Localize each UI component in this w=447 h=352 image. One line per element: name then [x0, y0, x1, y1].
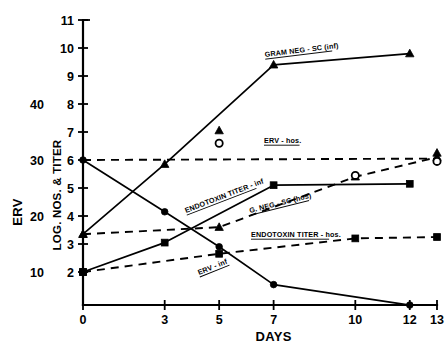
y-axis-title-secondary: ERV	[10, 198, 25, 225]
gram-neg-sc-inf-label: GRAM NEG - SC (inf)	[264, 41, 339, 59]
gram-neg-sc-inf-label-text: GRAM NEG - SC (inf)	[264, 41, 339, 59]
erv-hos-label: ERV - hos.	[264, 136, 301, 145]
y-axis-secondary-tick-label: 30	[30, 154, 44, 168]
endotoxin-titer-inf-day5-triangle	[215, 126, 223, 134]
y-axis-secondary-tick-label: 10	[30, 266, 44, 280]
series-line	[83, 184, 410, 272]
y-axis-tick-label: 7	[67, 126, 74, 140]
series-point	[161, 209, 168, 216]
y-axis-tick-label: 8	[67, 98, 74, 112]
y-axis-tick-label: 10	[60, 42, 74, 56]
series-point	[406, 302, 413, 309]
series-point	[80, 269, 87, 276]
x-axis-tick-label: 5	[216, 313, 223, 327]
series-point	[406, 180, 413, 187]
y-axis-tick-label: 2	[67, 266, 74, 280]
series-line	[83, 237, 437, 272]
x-axis-tick-label: 13	[430, 313, 444, 327]
x-axis-title: DAYS	[256, 329, 292, 344]
x-axis-tick-label: 12	[403, 313, 417, 327]
series-point	[80, 157, 87, 164]
series-line	[83, 157, 437, 234]
y-axis-title-primary: LOG. NOS. & TITER	[51, 139, 63, 250]
erv-hos-label-text: ERV - hos.	[264, 136, 301, 145]
x-axis-tick-label: 3	[161, 313, 168, 327]
endotoxin-titer-hos-label: ENDOTOXIN TITER - hos.	[251, 230, 341, 239]
axis-titles: DAYSLOG. NOS. & TITERERV	[10, 139, 292, 344]
series-line	[83, 54, 410, 235]
chart-svg: 234567891011102030400357101213 GRAM NEG …	[0, 0, 447, 352]
erv-inf-label: ERV - inf	[196, 257, 229, 277]
y-axis-tick-label: 9	[67, 70, 74, 84]
erv-hos-day10-circle-open	[352, 172, 359, 179]
y-axis-tick-label: 4	[67, 210, 74, 224]
erv-hos-day5-circle-open	[216, 140, 223, 147]
y-axis-tick-label: 11	[61, 14, 74, 28]
series-point	[216, 244, 223, 251]
endotoxin-titer-inf-day13-triangle	[433, 149, 441, 157]
series-point	[352, 235, 359, 242]
y-axis-secondary-tick-label: 40	[30, 98, 44, 112]
endotoxin-titer-hos-label-text: ENDOTOXIN TITER - hos.	[251, 230, 341, 239]
y-axis-tick-label: 6	[67, 154, 74, 168]
y-axis-secondary-tick-label: 20	[30, 210, 44, 224]
x-axis-tick-label: 7	[270, 313, 277, 327]
figure-container: 234567891011102030400357101213 GRAM NEG …	[0, 0, 447, 352]
series-line	[83, 159, 437, 160]
erv-hos-day13-circle-open	[433, 158, 440, 165]
series-point	[216, 250, 223, 257]
series-point	[270, 281, 277, 288]
series-point	[161, 239, 168, 246]
series-point	[270, 182, 277, 189]
y-axis-tick-label: 3	[67, 238, 74, 252]
y-axis-tick-label: 5	[67, 182, 74, 196]
x-axis-tick-label: 0	[80, 313, 87, 327]
series-point	[434, 234, 441, 241]
x-axis-tick-label: 10	[348, 313, 362, 327]
